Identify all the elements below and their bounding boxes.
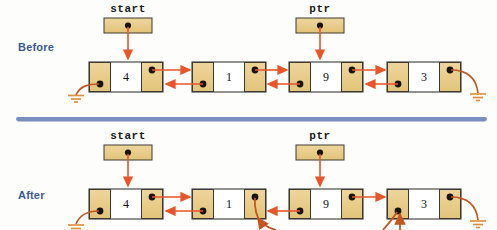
after-section-label: After [18,189,45,201]
before-section-label: Before [18,41,54,53]
section-divider [18,119,485,122]
after-node-value-2: 9 [310,197,342,212]
before-node-value-3: 3 [408,70,440,85]
after-node-value-3: 3 [408,197,440,212]
after-section-graphics [68,145,486,230]
after-node-value-0: 4 [110,197,142,212]
after-start-label: start [104,130,152,142]
after-node-value-1: 1 [213,197,245,212]
before-section-graphics [68,18,486,102]
before-start-label: start [104,3,152,15]
before-node-value-0: 4 [110,70,142,85]
before-node-value-1: 1 [213,70,245,85]
diagram-vector-layer [0,0,497,230]
before-node-value-2: 9 [310,70,342,85]
linked-list-diagram: Before start ptr 4 1 9 3 After start ptr… [0,0,497,230]
before-ptr-label: ptr [296,3,344,15]
after-ptr-label: ptr [296,130,344,142]
